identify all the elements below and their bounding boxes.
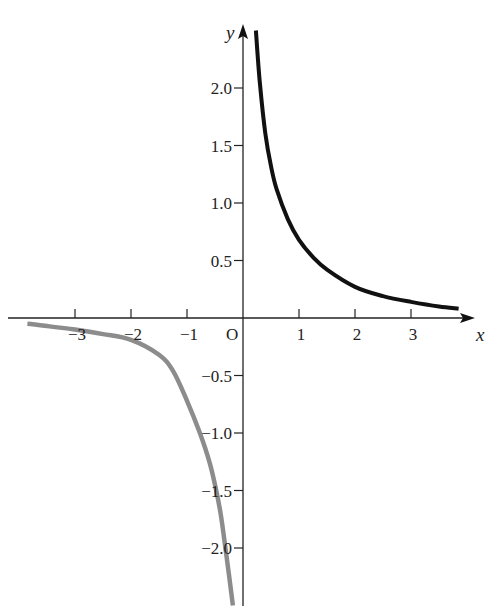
y-tick-label: 1.5: [211, 137, 232, 156]
origin-label: O: [226, 325, 238, 344]
y-tick-label: 0.5: [211, 252, 232, 271]
chart-plot-area: −3−2−11232.01.51.00.5−0.5−1.0−1.5−2.0xyO: [0, 0, 495, 612]
axes: [8, 24, 475, 606]
x-tick-label: 2: [353, 325, 362, 344]
y-axis-label: y: [224, 22, 235, 43]
x-tick-label: −1: [180, 325, 198, 344]
y-tick-label: −1.0: [201, 424, 232, 443]
y-tick-label: −2.0: [201, 539, 232, 558]
tick-labels: −3−2−11232.01.51.00.5−0.5−1.0−1.5−2.0xyO: [68, 22, 485, 558]
x-tick-label: 1: [297, 325, 306, 344]
y-tick-label: −1.5: [201, 482, 232, 501]
y-tick-label: −0.5: [201, 367, 232, 386]
y-tick-label: 1.0: [211, 194, 232, 213]
x-tick-label: −2: [124, 325, 142, 344]
x-tick-label: 3: [409, 325, 418, 344]
x-tick-label: −3: [68, 325, 86, 344]
y-tick-label: 2.0: [211, 79, 232, 98]
x-axis-label: x: [475, 324, 485, 345]
curve-positive-branch: [256, 31, 459, 309]
